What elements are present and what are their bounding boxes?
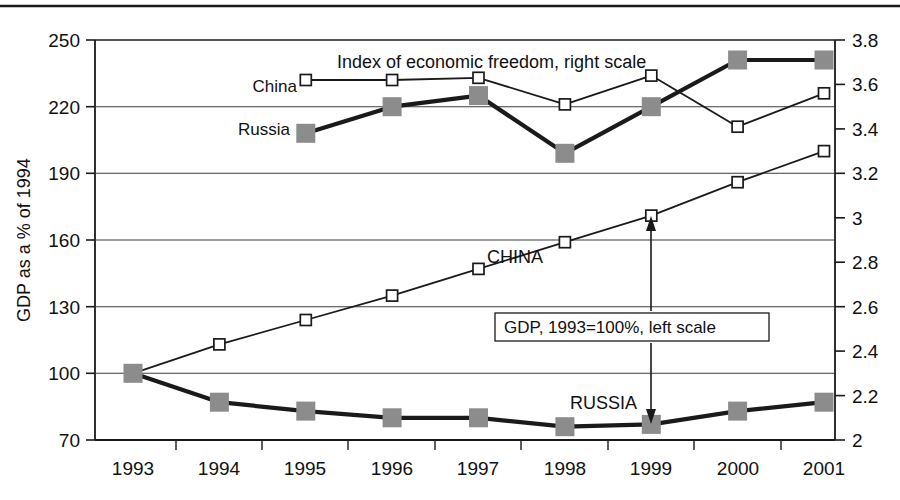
marker-filled-square xyxy=(728,51,747,70)
marker-open-square xyxy=(732,121,743,132)
marker-open-square xyxy=(300,75,311,86)
marker-filled-square xyxy=(815,51,834,70)
marker-open-square xyxy=(300,315,311,326)
left-tick-label-220: 220 xyxy=(48,97,80,118)
x-tick-label-1996: 1996 xyxy=(371,458,413,479)
marker-filled-square xyxy=(383,408,402,427)
right-tick-label-2-0: 2 xyxy=(852,430,863,451)
marker-open-square xyxy=(819,146,830,157)
right-tick-label-3-2: 3.2 xyxy=(852,163,878,184)
right-tick-label-3-0: 3 xyxy=(852,208,863,229)
index-of-economic-freedom-label: Index of economic freedom, right scale xyxy=(337,52,646,72)
left-axis-tick-labels: 250 220 190 160 130 100 70 xyxy=(48,30,80,451)
left-tick-label-130: 130 xyxy=(48,297,80,318)
x-axis-tick-labels: 1993 1994 1995 1996 1997 1998 1999 2000 … xyxy=(112,458,845,479)
marker-filled-square xyxy=(296,402,315,421)
right-tick-label-2-8: 2.8 xyxy=(852,252,878,273)
right-tick-label-3-8: 3.8 xyxy=(852,30,878,51)
marker-filled-square xyxy=(383,97,402,116)
marker-open-square xyxy=(646,70,657,81)
y-axis-title: GDP as a % of 1994 xyxy=(14,158,34,322)
series-china-right xyxy=(300,70,829,132)
x-tick-label-2001: 2001 xyxy=(803,458,845,479)
x-tick-label-1994: 1994 xyxy=(198,458,241,479)
x-tick-label-2000: 2000 xyxy=(717,458,759,479)
marker-open-square xyxy=(387,75,398,86)
x-axis-ticks xyxy=(176,440,781,450)
marker-filled-square xyxy=(210,393,229,412)
russia-index-series-label: Russia xyxy=(238,120,291,139)
x-tick-label-1999: 1999 xyxy=(630,458,672,479)
series-layer xyxy=(124,51,834,437)
left-tick-label-70: 70 xyxy=(59,430,80,451)
marker-filled-square xyxy=(555,417,574,436)
right-tick-label-2-2: 2.2 xyxy=(852,386,878,407)
arrow-down-to-russia-gdp xyxy=(646,343,656,424)
economic-freedom-gdp-chart: 250 220 190 160 130 100 70 GDP as a % of… xyxy=(0,0,900,500)
marker-filled-square xyxy=(815,393,834,412)
left-tick-label-100: 100 xyxy=(48,363,80,384)
marker-filled-square xyxy=(124,364,143,383)
annotation-layer: Index of economic freedom, right scale C… xyxy=(238,52,769,424)
gdp-annotation-text: GDP, 1993=100%, left scale xyxy=(504,318,716,337)
marker-open-square xyxy=(214,339,225,350)
right-tick-label-3-4: 3.4 xyxy=(852,119,879,140)
x-tick-label-1998: 1998 xyxy=(544,458,586,479)
marker-filled-square xyxy=(555,144,574,163)
marker-open-square xyxy=(559,99,570,110)
right-tick-label-2-4: 2.4 xyxy=(852,341,879,362)
right-axis-tick-labels: 3.8 3.6 3.4 3.2 3 2.8 2.6 2.4 2.2 2 xyxy=(852,30,879,451)
china-gdp-series-label: CHINA xyxy=(487,247,543,267)
x-tick-label-1995: 1995 xyxy=(284,458,326,479)
russia-gdp-series-label: RUSSIA xyxy=(570,393,637,413)
marker-filled-square xyxy=(469,408,488,427)
marker-open-square xyxy=(559,237,570,248)
series-china-left xyxy=(128,146,830,379)
china-index-series-label: China xyxy=(253,77,298,96)
right-tick-label-2-6: 2.6 xyxy=(852,297,878,318)
marker-open-square xyxy=(473,263,484,274)
left-tick-label-250: 250 xyxy=(48,30,80,51)
marker-filled-square xyxy=(728,402,747,421)
left-tick-label-160: 160 xyxy=(48,230,80,251)
right-tick-label-3-6: 3.6 xyxy=(852,74,878,95)
marker-filled-square xyxy=(642,97,661,116)
arrow-up-to-china-gdp xyxy=(646,216,656,311)
marker-open-square xyxy=(387,290,398,301)
x-tick-label-1993: 1993 xyxy=(112,458,154,479)
right-axis-ticks xyxy=(835,40,845,440)
marker-filled-square xyxy=(296,124,315,143)
chart-figure: 250 220 190 160 130 100 70 GDP as a % of… xyxy=(0,0,900,500)
series-russia-left xyxy=(124,364,834,436)
marker-filled-square xyxy=(469,86,488,105)
marker-open-square xyxy=(732,177,743,188)
x-tick-label-1997: 1997 xyxy=(457,458,499,479)
marker-open-square xyxy=(473,72,484,83)
marker-open-square xyxy=(819,88,830,99)
left-tick-label-190: 190 xyxy=(48,163,80,184)
left-axis-ticks xyxy=(86,40,95,440)
